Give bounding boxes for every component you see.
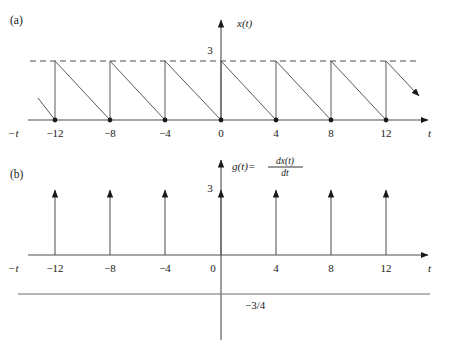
panel-b-level-label: −3/4 [245,299,266,311]
node-dot [108,118,113,123]
node-dot [274,118,279,123]
panel-b-tick-label: −8 [104,262,116,274]
node-dot [329,118,334,123]
panel-a-tick-label: 8 [328,127,334,139]
panel-a-tick-label: 12 [381,127,392,139]
panel-b-tick-label: 12 [381,262,392,274]
signal-figure: (a) [0,0,449,348]
sawtooth-waveform [38,61,419,120]
impulse-train [55,190,386,255]
panel-b-tick-label: 4 [273,262,279,274]
panel-a-peak-label: 3 [207,44,213,56]
panel-b-tick-label: 0 [210,262,216,274]
sawtooth-ramp [55,61,110,120]
panel-b-tick-label: −12 [46,262,63,274]
sawtooth-ramp [221,61,276,120]
sawtooth-ramp [110,61,165,120]
node-dot [219,118,224,123]
panel-b-y-axis-label-denominator: dt [281,168,289,178]
sawtooth-ramp [276,61,331,120]
panel-a-tick-label: −4 [159,127,171,139]
node-dot [163,118,168,123]
panel-a-t-axis-label-left: −t [8,127,19,139]
panel-b-t-axis-label-left: −t [8,262,19,274]
panel-b-y-axis-label-numerator: dx(t) [276,156,294,167]
sawtooth-ramp [331,61,386,120]
panel-a: (a) [8,14,432,139]
panel-a-y-axis-label: x(t) [236,17,253,30]
sawtooth-trailing-ramp [386,61,419,96]
node-dot [53,118,58,123]
panel-b: (b) 3 −3/4 g(t)= dx(t) dt −t [8,156,432,340]
sawtooth-ramp [165,61,221,120]
panel-a-tick-label: 4 [273,127,279,139]
panel-b-tag: (b) [10,168,24,181]
panel-a-t-axis-label-right: t [428,127,432,139]
panel-a-tick-label: −12 [46,127,63,139]
panel-a-tag: (a) [10,14,23,27]
panel-a-tick-label: 0 [218,127,224,139]
panel-a-tick-label: −8 [104,127,116,139]
panel-b-t-axis-label-right: t [428,262,432,274]
panel-b-y-axis-label-fn: g(t)= [232,160,255,173]
panel-b-peak-label: 3 [207,182,213,194]
node-dot [384,118,389,123]
panel-b-tick-label: 8 [328,262,334,274]
panel-b-y-axis-label: g(t)= dx(t) dt [232,156,303,178]
panel-b-tick-label: −4 [159,262,171,274]
sawtooth-lead-in-ramp [38,98,55,120]
